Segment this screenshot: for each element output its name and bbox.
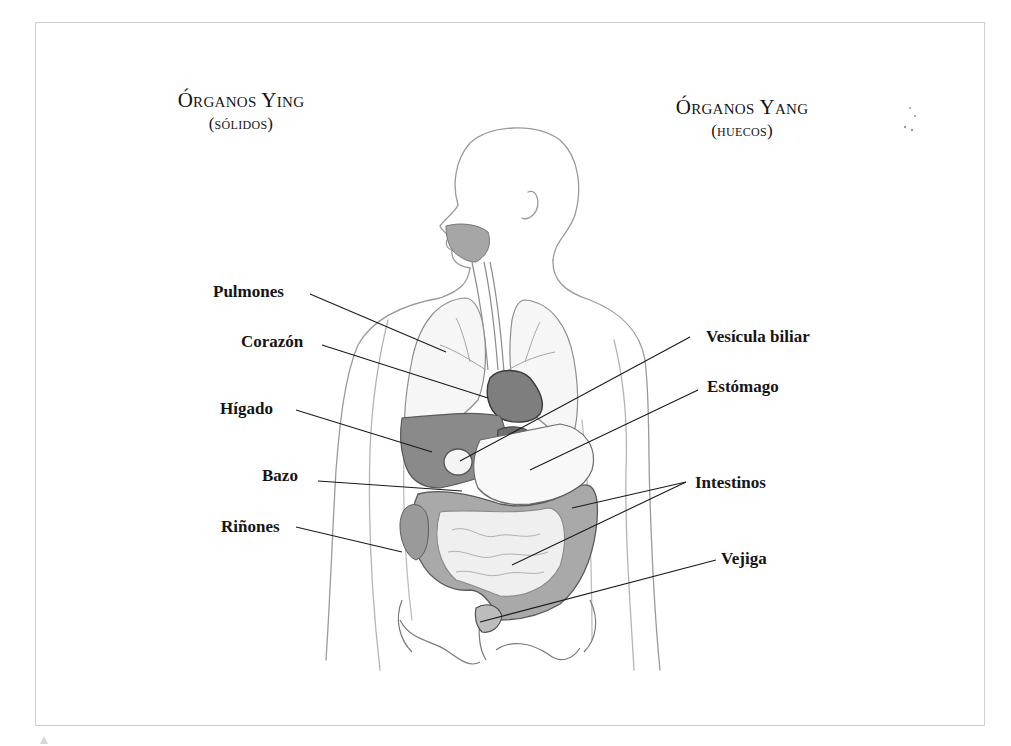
- kidney-shape: [400, 505, 429, 560]
- label-higado: Hígado: [220, 400, 273, 418]
- anatomy-illustration: [0, 0, 1011, 746]
- label-intestinos: Intestinos: [695, 474, 766, 492]
- label-pulmones: Pulmones: [213, 283, 284, 301]
- label-vesicula-biliar: Vesícula biliar: [706, 328, 810, 346]
- scan-corner-mark: [40, 736, 48, 744]
- label-vejiga: Vejiga: [721, 550, 767, 568]
- gallbladder-shape: [444, 449, 472, 475]
- label-bazo: Bazo: [262, 467, 298, 485]
- leader-rinones: [296, 527, 402, 552]
- label-estomago: Estómago: [707, 378, 779, 396]
- scan-specks: [904, 107, 916, 131]
- bladder-shape: [475, 605, 502, 633]
- label-rinones: Riñones: [221, 518, 280, 536]
- label-corazon: Corazón: [241, 333, 303, 351]
